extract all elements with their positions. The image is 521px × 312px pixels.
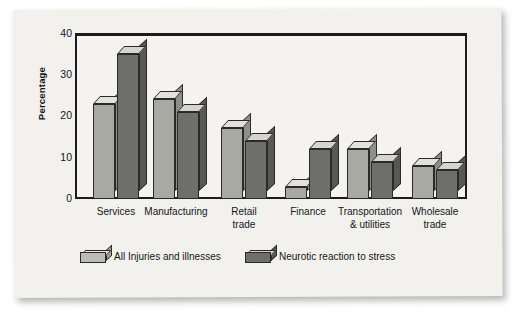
bar-side-face bbox=[458, 155, 466, 191]
bar-front bbox=[221, 128, 243, 199]
bar-front bbox=[309, 149, 331, 199]
bar-front bbox=[285, 187, 307, 199]
bar-front bbox=[93, 104, 115, 199]
y-tick-30: 30 bbox=[46, 69, 72, 79]
y-tick-20: 20 bbox=[46, 110, 72, 120]
y-tick-0: 0 bbox=[46, 193, 72, 203]
legend-swatch bbox=[80, 250, 106, 263]
bar-side-face bbox=[199, 97, 207, 191]
legend-label: All Injuries and illnesses bbox=[114, 251, 221, 262]
bar-front bbox=[245, 141, 267, 199]
bar-neurotic-stress-4 bbox=[371, 162, 393, 199]
bar-neurotic-stress-2 bbox=[245, 141, 267, 199]
y-axis: 40 30 20 10 0 bbox=[40, 0, 72, 312]
legend-label: Neurotic reaction to stress bbox=[279, 251, 395, 262]
legend-swatch bbox=[245, 250, 271, 263]
bar-neurotic-stress-0 bbox=[117, 54, 139, 199]
category-label-line: trade bbox=[203, 219, 285, 232]
bar-all-injuries-0 bbox=[93, 104, 115, 199]
bar-front bbox=[436, 170, 458, 199]
chart-figure: Percentage 40 30 20 10 0 ServicesManufac… bbox=[0, 0, 521, 312]
category-label-line: trade bbox=[394, 219, 476, 232]
bar-side-face bbox=[139, 39, 147, 191]
bar-all-injuries-4 bbox=[347, 149, 369, 199]
bar-front bbox=[347, 149, 369, 199]
bar-front bbox=[117, 54, 139, 199]
legend-swatch-front bbox=[245, 252, 271, 263]
bar-all-injuries-1 bbox=[153, 99, 175, 199]
bar-neurotic-stress-5 bbox=[436, 170, 458, 199]
bar-all-injuries-5 bbox=[412, 166, 434, 199]
bar-front bbox=[153, 99, 175, 199]
legend-swatch-front bbox=[80, 252, 106, 263]
bar-front bbox=[177, 112, 199, 199]
category-label-5: Wholesaletrade bbox=[394, 206, 476, 231]
y-tick-10: 10 bbox=[46, 152, 72, 162]
y-tick-40: 40 bbox=[46, 28, 72, 38]
bar-front bbox=[371, 162, 393, 199]
category-label-line: Wholesale bbox=[394, 206, 476, 219]
bar-front bbox=[412, 166, 434, 199]
bar-neurotic-stress-3 bbox=[309, 149, 331, 199]
bars-layer bbox=[75, 33, 467, 199]
bar-all-injuries-3 bbox=[285, 187, 307, 199]
bar-neurotic-stress-1 bbox=[177, 112, 199, 199]
bar-all-injuries-2 bbox=[221, 128, 243, 199]
